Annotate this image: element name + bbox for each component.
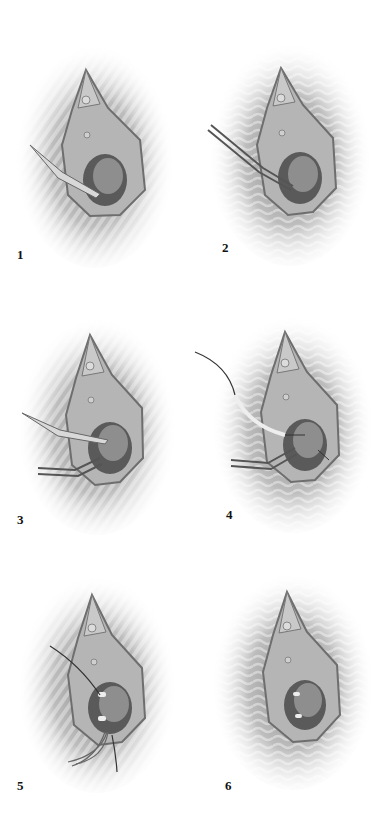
- illustration-forceps-grasp: [193, 0, 387, 280]
- illustration-scalpel-and-forceps: [0, 280, 193, 550]
- illustration-scalpel-incision: [0, 0, 193, 280]
- panel-number: 2: [222, 240, 229, 256]
- panel-number: 4: [226, 507, 233, 523]
- panel-3: 3: [0, 280, 193, 550]
- panel-5: 5: [0, 550, 193, 826]
- panel-number: 6: [225, 778, 232, 794]
- panel-1: 1: [0, 0, 193, 280]
- illustration-suture-placement: [193, 280, 387, 550]
- illustration-sutures-through-cavity: [0, 550, 193, 826]
- panel-number: 1: [17, 247, 24, 263]
- panel-number: 5: [17, 778, 24, 794]
- panel-6: 6: [193, 550, 386, 826]
- illustration-completed-repair: [193, 550, 387, 826]
- panel-4: 4: [193, 280, 386, 550]
- panel-2: 2: [193, 0, 386, 280]
- panel-number: 3: [17, 512, 24, 528]
